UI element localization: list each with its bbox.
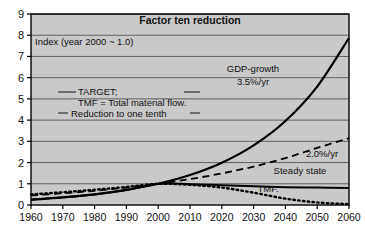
xtick-label-1970: 1970: [51, 211, 75, 223]
ytick-label-0: 0: [18, 199, 24, 211]
annotation-target: TARGET;: [78, 86, 117, 97]
xtick-label-2000: 2000: [147, 211, 171, 223]
chart-figure: 0123456789 19601970198019902000201020202…: [0, 0, 365, 234]
xtick-label-2010: 2010: [178, 211, 202, 223]
factor-ten-reduction-chart: 0123456789 19601970198019902000201020202…: [0, 0, 365, 234]
xtick-label-1990: 1990: [115, 211, 139, 223]
ytick-label-3: 3: [18, 135, 24, 147]
ytick-label-6: 6: [18, 72, 24, 84]
xtick-label-2030: 2030: [242, 211, 266, 223]
xtick-label-2060: 2060: [337, 211, 361, 223]
ytick-label-8: 8: [18, 29, 24, 41]
xtick-label-1980: 1980: [83, 211, 107, 223]
series-label-tmf: TMF.: [257, 183, 278, 194]
x-axis-tick-labels: 1960197019801990200020102020203020402050…: [19, 211, 361, 223]
ytick-label-5: 5: [18, 93, 24, 105]
chart-title: Factor ten reduction: [139, 14, 241, 26]
xtick-label-2020: 2020: [210, 211, 234, 223]
ytick-label-1: 1: [18, 178, 24, 190]
y-axis-tick-labels: 0123456789: [18, 8, 24, 211]
series-label-gdp-growth-rate: 3.5%/yr: [237, 76, 269, 87]
ytick-label-9: 9: [18, 8, 24, 20]
xtick-label-2050: 2050: [306, 211, 330, 223]
series-label-gdp-growth: GDP-growth: [227, 63, 279, 74]
ytick-label-7: 7: [18, 50, 24, 62]
index-note: Index (year 2000 ~ 1.0): [35, 36, 134, 47]
ytick-label-2: 2: [18, 157, 24, 169]
ytick-label-4: 4: [18, 114, 24, 126]
annotation-tmf-definition: TMF = Total material flow.: [78, 97, 186, 108]
xtick-label-1960: 1960: [19, 211, 43, 223]
annotation-reduction: Reduction to one tenth: [71, 108, 167, 119]
xtick-label-2040: 2040: [274, 211, 298, 223]
series-label-two-percent: 2.0%/yr: [306, 148, 338, 159]
series-label-steady-state: Steady state: [274, 165, 327, 176]
